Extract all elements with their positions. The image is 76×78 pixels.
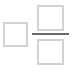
fraction-template-icon	[0, 0, 76, 78]
fraction-bar	[32, 33, 69, 35]
denominator-placeholder-box	[37, 39, 64, 65]
whole-number-placeholder-box	[3, 22, 28, 47]
numerator-placeholder-box	[37, 5, 64, 31]
